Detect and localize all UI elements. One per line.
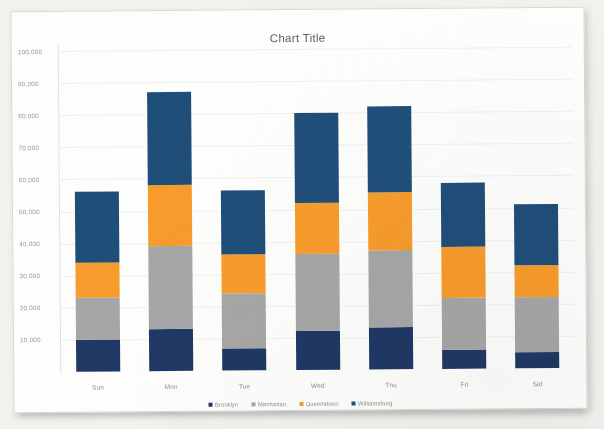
- bar-segment-brooklyn[interactable]: [149, 329, 193, 371]
- bar-segment-brooklyn[interactable]: [369, 327, 413, 369]
- legend-swatch-icon: [352, 402, 356, 406]
- legend-item-manhattan[interactable]: Manhattan: [251, 401, 286, 407]
- bar-segment-queensboro[interactable]: [441, 247, 485, 299]
- x-tick-label-sat: Sat: [501, 380, 574, 388]
- bar-segment-queensboro[interactable]: [222, 255, 266, 294]
- photo-backdrop: Chart Title 10,00020,00030,00040,00050,0…: [0, 0, 604, 429]
- bar-group-thu[interactable]: [367, 48, 414, 369]
- y-tick-label: 50,000: [19, 208, 61, 215]
- x-tick-label-wed: Wed: [281, 382, 354, 390]
- chart-legend: BrooklynManhattanQueensboroWilliamsburg: [15, 399, 587, 409]
- bar-segment-manhattan[interactable]: [368, 250, 413, 327]
- y-tick-label: 90,000: [18, 79, 60, 86]
- bar-segment-williamsburg[interactable]: [221, 191, 266, 256]
- bar-segment-manhattan[interactable]: [75, 298, 119, 340]
- plot-area: [59, 38, 575, 382]
- gridlines: [11, 8, 583, 12]
- y-tick-label: 10,000: [20, 336, 62, 343]
- legend-label: Manhattan: [258, 401, 286, 407]
- bar-group-sat[interactable]: [513, 47, 560, 368]
- bar-segment-queensboro[interactable]: [515, 265, 559, 297]
- x-tick-label-tue: Tue: [208, 382, 281, 390]
- bar-group-sun[interactable]: [73, 50, 120, 371]
- bar-segment-manhattan[interactable]: [442, 298, 486, 350]
- legend-item-williamsburg[interactable]: Williamsburg: [352, 400, 393, 406]
- bar-segment-manhattan[interactable]: [515, 297, 559, 352]
- bar-segment-brooklyn[interactable]: [515, 352, 559, 368]
- bar-segment-williamsburg[interactable]: [74, 192, 119, 263]
- y-tick-label: 30,000: [19, 272, 61, 279]
- x-tick-label-sun: Sun: [61, 383, 134, 391]
- legend-label: Brooklyn: [215, 401, 238, 407]
- x-axis-tick-labels: SunMonTueWedThuFriSat: [61, 380, 574, 396]
- legend-swatch-icon: [299, 402, 303, 406]
- bar-segment-williamsburg[interactable]: [514, 204, 558, 265]
- legend-label: Queensboro: [306, 401, 339, 407]
- y-tick-label: 60,000: [19, 176, 61, 183]
- x-tick-label-thu: Thu: [354, 381, 427, 389]
- bar-group-mon[interactable]: [147, 50, 194, 371]
- bar-segment-queensboro[interactable]: [368, 193, 412, 251]
- bar-segment-brooklyn[interactable]: [76, 339, 120, 371]
- bar-group-fri[interactable]: [440, 48, 487, 369]
- bar-segment-queensboro[interactable]: [148, 185, 192, 246]
- bar-segment-queensboro[interactable]: [294, 203, 338, 255]
- legend-swatch-icon: [209, 403, 213, 407]
- bar-segment-manhattan[interactable]: [295, 254, 340, 331]
- x-tick-label-mon: Mon: [135, 383, 208, 391]
- legend-swatch-icon: [251, 402, 255, 406]
- bar-segment-brooklyn[interactable]: [295, 331, 339, 370]
- y-axis-tick-labels: 10,00020,00030,00040,00050,00060,00070,0…: [25, 12, 62, 412]
- bar-segment-manhattan[interactable]: [222, 293, 266, 348]
- bar-segment-queensboro[interactable]: [75, 262, 119, 298]
- bar-group-tue[interactable]: [220, 49, 267, 370]
- bar-segment-williamsburg[interactable]: [367, 106, 412, 193]
- chart: Chart Title 10,00020,00030,00040,00050,0…: [11, 8, 586, 412]
- legend-item-queensboro[interactable]: Queensboro: [299, 401, 338, 407]
- legend-item-brooklyn[interactable]: Brooklyn: [209, 401, 239, 407]
- bar-segment-brooklyn[interactable]: [442, 349, 486, 369]
- y-tick-label: 40,000: [19, 240, 61, 247]
- y-tick-label: 70,000: [18, 144, 60, 151]
- bar-segment-williamsburg[interactable]: [147, 92, 192, 185]
- y-tick-label: 80,000: [18, 112, 60, 119]
- bar-segment-williamsburg[interactable]: [441, 182, 486, 247]
- legend-label: Williamsburg: [358, 400, 392, 406]
- y-tick-label: 100,000: [18, 47, 60, 54]
- bar-segment-manhattan[interactable]: [148, 246, 193, 330]
- x-tick-label-fri: Fri: [428, 380, 501, 388]
- bar-segment-brooklyn[interactable]: [222, 348, 266, 371]
- bar-segment-williamsburg[interactable]: [294, 113, 339, 203]
- y-tick-label: 20,000: [20, 304, 62, 311]
- printed-page: Chart Title 10,00020,00030,00040,00050,0…: [10, 7, 587, 413]
- bar-group-wed[interactable]: [293, 49, 340, 370]
